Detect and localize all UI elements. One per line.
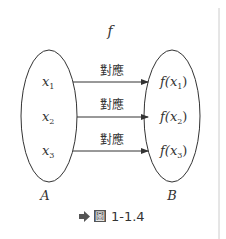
domain-element-3: x3: [42, 143, 54, 160]
codomain-element-2: f(x2): [159, 109, 187, 126]
domain-set-label: A: [39, 188, 49, 203]
function-name: f: [106, 23, 115, 39]
codomain-element-3: f(x3): [159, 143, 187, 160]
domain-element-2: x2: [42, 109, 54, 126]
function-mapping-diagram: f x1 x2 x3 f(x1) f(x2) f(x3) 對應 對應 對應 A …: [0, 0, 226, 239]
codomain-set-label: B: [166, 188, 177, 203]
arrow-right-icon: [79, 211, 90, 222]
svg-text:f(x3): f(x3): [159, 143, 187, 160]
codomain-element-1: f(x1): [159, 74, 187, 91]
mapping-label-1: 對應: [100, 63, 124, 78]
svg-text:x1: x1: [42, 74, 54, 91]
figure-caption: 圖 1-1.4: [79, 209, 145, 224]
svg-text:x3: x3: [42, 143, 54, 160]
svg-text:x2: x2: [42, 109, 54, 126]
domain-element-1: x1: [42, 74, 54, 91]
mapping-label-3: 對應: [100, 132, 124, 147]
mapping-label-2: 對應: [100, 97, 124, 112]
svg-text:f(x2): f(x2): [159, 109, 187, 126]
svg-text:f(x1): f(x1): [159, 74, 187, 91]
figure-label: 圖: [95, 211, 105, 222]
figure-number: 1-1.4: [111, 209, 145, 224]
